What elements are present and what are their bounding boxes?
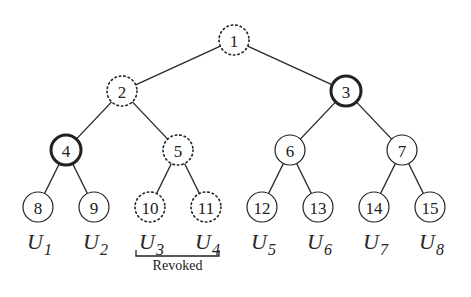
- user-label-u7: U7: [363, 229, 389, 258]
- tree-node-4: 4: [51, 135, 81, 165]
- binary-tree-diagram: 123456789101112131415 U1U2U3U4U5U6U7U8 R…: [0, 0, 471, 297]
- node-label: 14: [366, 199, 384, 218]
- node-label: 12: [254, 199, 271, 218]
- user-labels: U1U2U3U4U5U6U7U8: [27, 229, 444, 258]
- node-label: 15: [422, 199, 439, 218]
- tree-node-8: 8: [23, 192, 53, 222]
- user-label-u1: U1: [27, 229, 52, 258]
- tree-node-15: 15: [415, 192, 445, 222]
- node-label: 13: [310, 199, 327, 218]
- tree-edge: [300, 102, 335, 139]
- user-label-u4: U4: [195, 229, 220, 258]
- user-label-u2: U2: [83, 229, 108, 258]
- tree-node-11: 11: [191, 192, 221, 222]
- node-label: 2: [118, 83, 127, 102]
- node-label: 4: [62, 142, 71, 161]
- tree-edge: [132, 102, 167, 139]
- user-label-u3: U3: [139, 229, 164, 258]
- tree-edge: [45, 163, 60, 193]
- user-label-u5: U5: [251, 229, 276, 258]
- node-label: 10: [142, 199, 159, 218]
- tree-node-7: 7: [387, 135, 417, 165]
- node-label: 9: [90, 199, 99, 218]
- tree-edge: [185, 163, 200, 193]
- tree-node-5: 5: [163, 135, 193, 165]
- tree-edge: [297, 163, 312, 193]
- tree-edge: [356, 102, 391, 139]
- tree-edge: [136, 46, 221, 85]
- tree-node-10: 10: [135, 192, 165, 222]
- tree-node-3: 3: [331, 76, 361, 106]
- tree-edge: [381, 163, 396, 193]
- node-label: 11: [198, 199, 214, 218]
- tree-node-1: 1: [219, 25, 249, 55]
- revoked-label: Revoked: [153, 258, 203, 273]
- tree-node-6: 6: [275, 135, 305, 165]
- tree-edge: [409, 163, 424, 193]
- node-label: 7: [398, 142, 407, 161]
- node-label: 8: [34, 199, 43, 218]
- tree-edge: [76, 102, 111, 139]
- node-label: 5: [174, 142, 183, 161]
- tree-edges: [45, 46, 424, 193]
- tree-edge: [157, 163, 172, 193]
- tree-node-14: 14: [359, 192, 389, 222]
- tree-edge: [248, 46, 333, 85]
- user-label-u8: U8: [419, 229, 444, 258]
- node-label: 1: [230, 32, 239, 51]
- tree-node-2: 2: [107, 76, 137, 106]
- tree-edge: [269, 163, 284, 193]
- node-label: 3: [342, 83, 351, 102]
- tree-edge: [73, 163, 88, 193]
- tree-node-9: 9: [79, 192, 109, 222]
- tree-node-13: 13: [303, 192, 333, 222]
- user-label-u6: U6: [307, 229, 332, 258]
- tree-node-12: 12: [247, 192, 277, 222]
- node-label: 6: [286, 142, 295, 161]
